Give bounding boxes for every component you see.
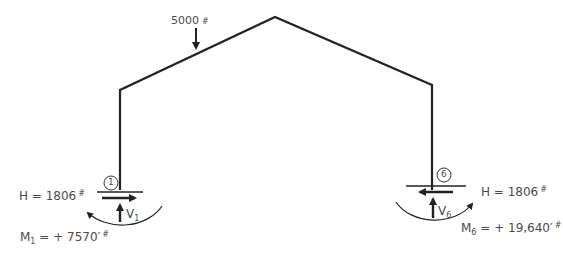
- frame-diagram: 5000# 1 6 H = 1806# V1 M1 = + 7570′# H =…: [0, 0, 563, 253]
- right-moment-label: M6 = + 19,640′#: [461, 222, 561, 234]
- right-h-label: H = 1806#: [481, 186, 547, 198]
- left-moment-label: M1 = + 7570′#: [20, 231, 109, 243]
- joint-1-number: 1: [108, 178, 114, 187]
- frame-members: [120, 17, 432, 190]
- left-v-label: V1: [126, 208, 139, 220]
- left-moment-arc: [88, 206, 162, 225]
- frame-drawing: [0, 0, 563, 253]
- load-label: 5000#: [171, 15, 209, 26]
- joint-6-number: 6: [441, 170, 447, 179]
- right-v-label: V6: [438, 205, 451, 217]
- left-h-label: H = 1806#: [19, 190, 85, 202]
